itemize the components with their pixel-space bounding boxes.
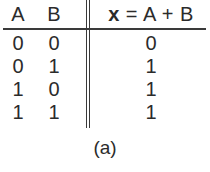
table-cell-a: 0	[4, 32, 32, 54]
truth-table-figure: A B x = A + B 0 0 0 0 1 1 1 0 1 1 1 1 (a…	[0, 0, 210, 172]
table-cell-a: 1	[4, 78, 32, 100]
truth-table: A B x = A + B 0 0 0 0 1 1 1 0 1 1 1 1	[0, 0, 210, 130]
output-expression-label: = A + B	[120, 3, 194, 25]
table-cell-x: 1	[96, 78, 206, 100]
header-rule	[3, 28, 206, 30]
table-cell-b: 0	[40, 32, 68, 54]
column-divider	[86, 0, 90, 128]
table-cell-b: 1	[40, 55, 68, 77]
table-cell-b: 1	[40, 101, 68, 123]
table-cell-a: 0	[4, 55, 32, 77]
column-header-a: A	[4, 2, 32, 26]
table-cell-x: 0	[96, 32, 206, 54]
output-variable-label: x	[108, 3, 120, 25]
column-header-output: x = A + B	[96, 2, 206, 26]
table-cell-a: 1	[4, 101, 32, 123]
table-cell-x: 1	[96, 55, 206, 77]
column-header-b: B	[40, 2, 68, 26]
table-cell-x: 1	[96, 101, 206, 123]
figure-caption: (a)	[0, 136, 210, 160]
table-cell-b: 0	[40, 78, 68, 100]
